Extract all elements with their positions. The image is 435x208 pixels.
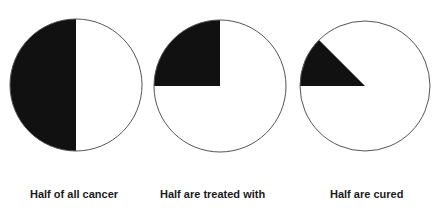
caption-1: Half of all cancer patients receive radi… bbox=[30, 164, 118, 208]
caption-2: Half are treated with intent to cure 1/2… bbox=[160, 164, 271, 208]
caption-2-line-1: Half are treated with bbox=[160, 188, 271, 200]
caption-1-line-1: Half of all cancer bbox=[30, 188, 118, 200]
pie-chart-2 bbox=[154, 20, 286, 152]
pie-chart-1 bbox=[10, 19, 142, 151]
pie-chart-3 bbox=[300, 21, 430, 151]
caption-3: Half are cured 1/2 × 1/2 × 1/2 = 1/8 of … bbox=[330, 164, 410, 208]
caption-3-line-1: Half are cured bbox=[330, 188, 410, 200]
